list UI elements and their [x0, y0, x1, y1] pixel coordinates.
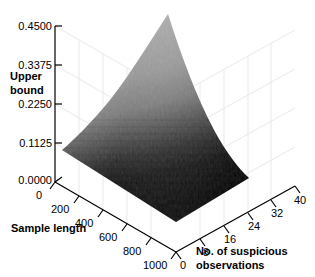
y-tick-label-5: 40: [294, 194, 306, 206]
y-axis-title-line1: No. of suspicious: [196, 245, 288, 257]
z-tick-label-4: 0.0000: [8, 174, 52, 186]
surface-mesh: [55, 10, 260, 225]
x-axis-title: Sample length: [11, 222, 86, 234]
x-tick-label-0: 0: [36, 189, 42, 201]
z-tick-label-3: 0.1125: [8, 137, 52, 149]
x-tick-label-3: 600: [99, 231, 117, 243]
y-tick-label-4: 32: [271, 207, 283, 219]
y-axis-title-line2: observations: [196, 259, 264, 271]
y-tick-label-2: 16: [224, 233, 236, 245]
y-tick-label-0: 0: [180, 259, 186, 271]
z-axis-title-line1: Upper: [10, 70, 42, 82]
x-tick-label-5: 1000: [143, 259, 167, 271]
z-tick-label-2: 0.2250: [8, 98, 52, 110]
surface-plot-figure: 0.4500 0.3375 0.2250 0.1125 0.0000 Upper…: [0, 0, 315, 277]
x-tick-label-4: 800: [123, 245, 141, 257]
x-tick-label-1: 200: [51, 203, 69, 215]
z-axis-title-line2: bound: [10, 84, 44, 96]
y-tick-label-3: 24: [248, 220, 260, 232]
z-tick-label-0: 0.4500: [8, 20, 52, 32]
z-axis-ticks: [55, 26, 62, 182]
